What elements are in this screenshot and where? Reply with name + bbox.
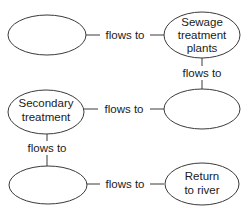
node-label: Return [185,170,220,182]
node-label: Sewage [181,16,223,28]
edge-label: flows to [106,29,145,41]
node-label: to river [184,184,219,196]
node-label: Secondary [19,97,74,109]
node-empty-2 [164,89,240,129]
edge-label: flows to [183,67,222,79]
node-empty-3 [9,166,87,204]
node-empty-1 [8,15,86,55]
node-label: treatment [178,29,227,41]
edge-label: flows to [106,178,145,190]
edge-label: flows to [28,142,67,154]
node-label: plants [187,42,218,54]
flow-diagram: Sewage treatment plants Secondary treatm… [0,0,250,208]
edge-label: flows to [105,103,144,115]
node-label: treatment [22,111,71,123]
